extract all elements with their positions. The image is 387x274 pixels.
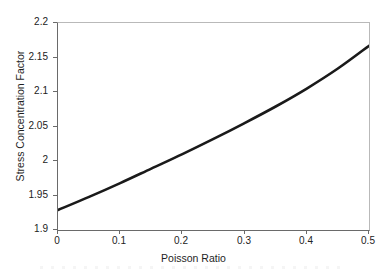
y-axis-tick-label: 2.2 [34, 17, 48, 27]
chart-figure: 1.91.9522.052.12.152.2 00.10.20.30.40.5 … [0, 0, 387, 274]
plot-area [57, 22, 370, 231]
y-axis-tick-label: 2.15 [29, 52, 48, 62]
y-axis-tick-label: 2.05 [29, 121, 48, 131]
x-axis-tick-label: 0.3 [224, 236, 264, 246]
x-axis-tick-label: 0.5 [348, 236, 387, 246]
x-axis-tick-label: 0 [37, 236, 77, 246]
y-axis-tick-label: 2.1 [34, 86, 48, 96]
y-axis-tick-label: 1.9 [34, 224, 48, 234]
scan-artifact-strip [40, 266, 340, 269]
series-line-stress-concentration-factor [58, 46, 369, 210]
y-axis-tick-label: 2 [42, 155, 48, 165]
x-axis-title: Poisson Ratio [0, 252, 387, 264]
y-axis-title: Stress Concentration Factor [14, 16, 26, 216]
x-axis-tick-label: 0.1 [99, 236, 139, 246]
data-curve-canvas [58, 23, 369, 230]
x-axis-tick-label: 0.2 [161, 236, 201, 246]
x-axis-tick-label: 0.4 [286, 236, 326, 246]
y-axis-tick-label: 1.95 [29, 190, 48, 200]
